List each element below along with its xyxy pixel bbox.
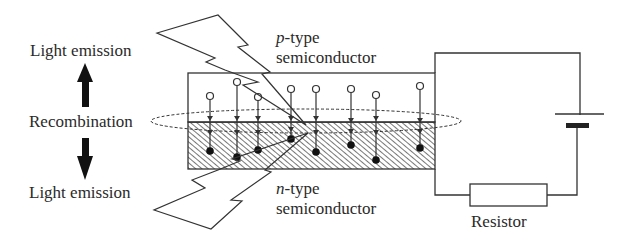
resistor-icon	[470, 184, 547, 206]
n-type-label: n-type	[276, 180, 319, 198]
n-type-suffix: -type	[285, 179, 320, 198]
n-type-prefix: n	[276, 179, 285, 198]
p-type-suffix: -type	[285, 28, 320, 47]
p-type-region	[188, 73, 435, 122]
led-pn-junction-diagram: Light emission Recombination Light emiss…	[0, 0, 631, 245]
battery-icon	[555, 114, 604, 128]
down-arrow-icon	[77, 138, 93, 180]
p-type-label: p-type	[276, 29, 319, 47]
n-type-region	[188, 122, 435, 169]
resistor-label: Resistor	[471, 213, 527, 231]
light-emission-bottom-label: Light emission	[29, 184, 131, 202]
n-type-line2-label: semiconductor	[276, 200, 376, 218]
recombination-label: Recombination	[29, 113, 133, 131]
p-type-line2-label: semiconductor	[276, 49, 376, 67]
p-type-prefix: p	[276, 28, 285, 47]
light-emission-top-label: Light emission	[30, 42, 132, 60]
up-arrow-icon	[77, 63, 93, 107]
